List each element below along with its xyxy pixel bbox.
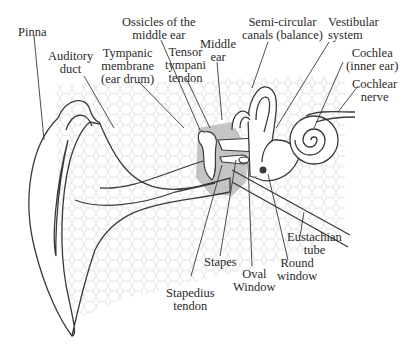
label-stapes: Stapes bbox=[204, 256, 237, 269]
label-eustachian-tube: Eustachiantube bbox=[287, 231, 342, 257]
label-oval-window: OvalWindow bbox=[233, 268, 276, 294]
label-round-window: Roundwindow bbox=[277, 257, 317, 283]
label-semicircular-canals: Semi-circularcanals (balance) bbox=[242, 16, 323, 42]
label-cochlea: Cochlea(inner ear) bbox=[346, 47, 398, 73]
label-stapedius-tendon: Stapediustendon bbox=[166, 287, 215, 313]
label-tympanic-membrane: Tympanicmembrane(ear drum) bbox=[101, 47, 154, 86]
label-middle-ear: Middleear bbox=[200, 38, 236, 64]
cochlea bbox=[290, 116, 338, 164]
label-ossicles: Ossicles of themiddle ear bbox=[122, 16, 196, 42]
round-window-dot bbox=[260, 167, 267, 174]
label-auditory-duct: Auditoryduct bbox=[48, 50, 93, 76]
label-cochlear-nerve: Cochlearnerve bbox=[352, 78, 397, 104]
label-pinna: Pinna bbox=[18, 26, 46, 39]
label-vestibular-system: Vestibularsystem bbox=[328, 16, 379, 42]
